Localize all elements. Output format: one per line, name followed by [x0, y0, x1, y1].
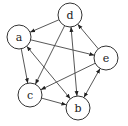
edge-line: [35, 26, 64, 85]
node-label: d: [66, 9, 73, 22]
edge-line: [84, 68, 100, 97]
edge-line: [42, 98, 67, 105]
edge-line: [21, 49, 28, 83]
node-label: b: [74, 102, 81, 115]
edge-line: [71, 27, 77, 96]
node-c: c: [18, 83, 42, 107]
node-d: d: [58, 3, 82, 27]
edge-a-c: [21, 49, 28, 83]
edge-c-b: [42, 98, 67, 105]
edge-line: [78, 24, 99, 49]
node-label: e: [103, 52, 110, 65]
node-label: a: [16, 31, 23, 44]
edge-d-a: [30, 20, 59, 32]
edge-e-d: [78, 24, 99, 49]
edge-line: [41, 63, 95, 89]
node-label: c: [27, 89, 33, 102]
node-b: b: [66, 96, 90, 120]
edge-line: [31, 40, 95, 55]
edge-e-c: [41, 63, 95, 89]
edge-e-b: [84, 68, 100, 97]
directed-graph: daecb: [0, 0, 128, 126]
edge-d-c: [35, 26, 64, 85]
node-e: e: [94, 46, 118, 70]
edge-line: [30, 20, 59, 32]
node-a: a: [7, 25, 31, 49]
edge-d-b: [71, 27, 77, 96]
edge-a-e: [31, 40, 95, 55]
